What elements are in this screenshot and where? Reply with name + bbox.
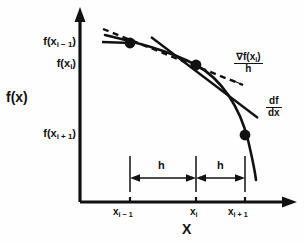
tangent-denominator: dx (266, 107, 282, 119)
h-arrow-right-head-start (196, 174, 206, 182)
secant-denominator: h (234, 63, 263, 75)
y-axis-title: f(x) (6, 90, 28, 104)
x-tick-label-curr: xi (190, 207, 198, 218)
h-arrow-left-head-end (186, 174, 196, 182)
y-axis-arrow-icon (75, 7, 86, 22)
y-label-f-x-next: f(xi + 1) (18, 128, 76, 141)
h-arrow-left-head-start (130, 174, 140, 182)
y-label-f-x-curr: f(xi) (24, 58, 76, 71)
x-tick-label-prev: xi − 1 (113, 207, 133, 218)
data-point-curr (191, 60, 202, 71)
secant-line-dashed (103, 29, 243, 85)
h-arrow-right-head-end (235, 174, 245, 182)
secant-slope-annotation: ∇f(xi) h (234, 52, 263, 75)
y-label-f-x-prev: f(xi − 1) (24, 36, 76, 49)
h-label-left: h (158, 160, 165, 171)
x-axis-arrow-icon (282, 197, 297, 208)
tangent-line-solid (151, 37, 258, 118)
derivative-diagram-figure: f(x) f(xi − 1) f(xi) f(xi + 1) xi − 1 xi… (0, 0, 304, 242)
data-point-prev (125, 38, 136, 49)
h-dimension-group (130, 156, 245, 192)
x-axis-title: X (182, 222, 191, 236)
h-label-right: h (217, 160, 224, 171)
curve-data-points (125, 38, 251, 141)
tangent-numerator: df (266, 96, 282, 107)
x-tick-label-next: xi + 1 (228, 207, 248, 218)
tangent-slope-annotation: df dx (266, 96, 282, 118)
secant-numerator: ∇f(xi) (234, 52, 263, 63)
data-point-next (240, 130, 251, 141)
